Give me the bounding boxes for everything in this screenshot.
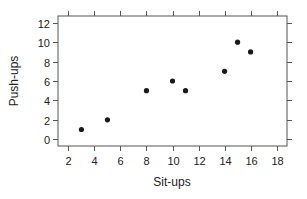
data-point bbox=[248, 49, 253, 54]
y-tick-label: 12 bbox=[38, 18, 50, 30]
x-tick-label: 16 bbox=[245, 155, 257, 167]
x-axis-top-ticks bbox=[69, 11, 278, 16]
x-tick-label: 6 bbox=[117, 155, 123, 167]
y-axis-tick-labels: 024681012 bbox=[38, 18, 50, 146]
x-tick-label: 2 bbox=[65, 155, 71, 167]
data-point bbox=[105, 117, 110, 122]
x-tick-label: 12 bbox=[193, 155, 205, 167]
scatter-chart: 24681012141618 024681012 Sit-ups Push-up… bbox=[0, 0, 307, 199]
y-axis-label: Push-ups bbox=[7, 56, 21, 107]
x-axis-tick-labels: 24681012141618 bbox=[65, 155, 283, 167]
x-tick-label: 10 bbox=[167, 155, 179, 167]
y-tick-label: 10 bbox=[38, 37, 50, 49]
y-axis-right-ticks bbox=[287, 24, 292, 140]
data-point bbox=[170, 78, 175, 83]
y-axis-ticks bbox=[53, 24, 58, 140]
y-tick-label: 0 bbox=[44, 134, 50, 146]
data-point bbox=[79, 127, 84, 132]
data-point bbox=[235, 40, 240, 45]
x-tick-label: 18 bbox=[271, 155, 283, 167]
y-tick-label: 2 bbox=[44, 115, 50, 127]
y-tick-label: 6 bbox=[44, 76, 50, 88]
data-point bbox=[183, 88, 188, 93]
x-tick-label: 4 bbox=[91, 155, 97, 167]
x-tick-label: 8 bbox=[143, 155, 149, 167]
y-tick-label: 4 bbox=[44, 95, 50, 107]
x-axis-ticks bbox=[69, 146, 278, 151]
y-tick-label: 8 bbox=[44, 57, 50, 69]
data-point bbox=[222, 69, 227, 74]
x-axis-label: Sit-ups bbox=[153, 175, 190, 189]
x-tick-label: 14 bbox=[219, 155, 231, 167]
data-point bbox=[144, 88, 149, 93]
data-points bbox=[79, 40, 253, 133]
